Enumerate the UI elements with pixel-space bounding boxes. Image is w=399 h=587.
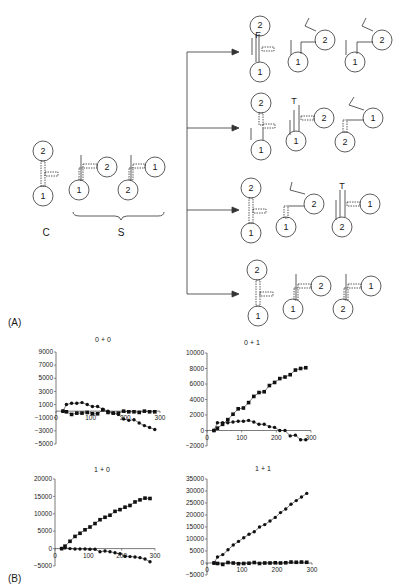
chart-title: 0 + 1 bbox=[244, 339, 260, 346]
circle-marker bbox=[226, 421, 229, 424]
square-marker bbox=[242, 406, 246, 410]
circle-marker bbox=[143, 557, 146, 560]
circle-marker bbox=[86, 403, 89, 406]
x-tick-label: 0 bbox=[54, 414, 58, 421]
square-marker bbox=[91, 412, 95, 416]
circle-marker bbox=[263, 423, 266, 426]
square-marker bbox=[279, 561, 283, 565]
y-tick-label: 15000 bbox=[34, 493, 52, 500]
brace-s bbox=[73, 212, 164, 220]
y-tick-label: −5000 bbox=[35, 440, 54, 447]
x-tick-label: 0 bbox=[205, 566, 209, 573]
circle-marker bbox=[232, 543, 235, 546]
square-marker bbox=[257, 391, 261, 395]
y-tick-label: 0 bbox=[200, 427, 204, 434]
square-marker bbox=[262, 390, 266, 394]
node-label: 1 bbox=[368, 281, 373, 291]
node-label: 2 bbox=[40, 146, 45, 156]
node-label: 1 bbox=[293, 136, 298, 146]
square-marker bbox=[300, 560, 304, 564]
x-tick-label: 200 bbox=[272, 566, 283, 573]
y-tick-label: −5000 bbox=[34, 562, 53, 569]
circle-marker bbox=[83, 547, 86, 550]
square-marker bbox=[231, 561, 235, 565]
circle-marker bbox=[128, 555, 131, 558]
x-tick-label: 200 bbox=[271, 434, 282, 441]
square-marker bbox=[247, 401, 251, 405]
circle-marker bbox=[113, 551, 116, 554]
diagram-panel-a bbox=[33, 16, 392, 326]
square-marker bbox=[273, 561, 277, 565]
square-marker bbox=[103, 515, 107, 519]
square-marker bbox=[78, 531, 82, 535]
circle-marker bbox=[299, 438, 302, 441]
circle-marker bbox=[148, 560, 151, 563]
circle-marker bbox=[106, 409, 109, 412]
y-tick-label: 10000 bbox=[186, 349, 204, 356]
chart-1: 0 + 090007000500030001000−1000−3000−5000… bbox=[35, 336, 166, 447]
circle-marker bbox=[127, 419, 130, 422]
circle-marker bbox=[73, 547, 76, 550]
figure-canvas: 2 1 1 2 2 1 C S 2 F 1 1 2 1 2 2 1 T 1 2 … bbox=[0, 0, 399, 587]
chart-title: 1 + 1 bbox=[255, 465, 271, 472]
y-tick-label: 2000 bbox=[190, 411, 205, 418]
y-tick-label: 35000 bbox=[186, 475, 204, 482]
circle-marker bbox=[123, 555, 126, 558]
circle-marker bbox=[122, 417, 125, 420]
node-label: 1 bbox=[352, 57, 357, 67]
chart-title: 0 + 0 bbox=[95, 336, 111, 343]
square-marker bbox=[75, 411, 79, 415]
square-marker bbox=[263, 561, 267, 565]
node-label: 2 bbox=[342, 137, 347, 147]
square-marker bbox=[70, 413, 74, 417]
x-tick-label: 300 bbox=[150, 552, 161, 559]
square-marker bbox=[231, 412, 235, 416]
square-marker bbox=[221, 563, 225, 567]
square-marker bbox=[153, 410, 157, 414]
square-marker bbox=[137, 411, 141, 415]
circle-marker bbox=[237, 540, 240, 543]
circle-marker bbox=[274, 516, 277, 519]
square-marker bbox=[93, 522, 97, 526]
circle-marker bbox=[279, 511, 282, 514]
node-label: 2 bbox=[104, 162, 109, 172]
node-label: 2 bbox=[379, 35, 384, 45]
square-marker bbox=[128, 504, 132, 508]
square-marker bbox=[237, 562, 241, 566]
square-marker bbox=[305, 560, 309, 564]
y-tick-label: 15000 bbox=[186, 523, 204, 530]
node-label: 1 bbox=[248, 228, 253, 238]
x-tick-label: 0 bbox=[53, 552, 57, 559]
circle-marker bbox=[91, 405, 94, 408]
square-marker bbox=[283, 375, 287, 379]
square-marker bbox=[123, 505, 127, 509]
circle-marker bbox=[112, 411, 115, 414]
y-tick-label: 1000 bbox=[39, 401, 54, 408]
diagram-labels: 2 1 1 2 2 1 C S 2 F 1 1 2 1 2 2 1 T 1 2 … bbox=[40, 20, 384, 321]
circle-marker bbox=[237, 420, 240, 423]
circle-marker bbox=[252, 420, 255, 423]
square-marker bbox=[108, 513, 112, 517]
circle-marker bbox=[117, 413, 120, 416]
y-tick-label: 3000 bbox=[39, 388, 54, 395]
x-tick-label: 100 bbox=[237, 566, 248, 573]
square-marker bbox=[133, 500, 137, 504]
circle-marker bbox=[294, 433, 297, 436]
circle-marker bbox=[231, 420, 234, 423]
y-tick-label: 4000 bbox=[190, 396, 205, 403]
node-label: 2 bbox=[254, 265, 259, 275]
square-marker bbox=[127, 410, 131, 414]
circle-marker bbox=[68, 547, 71, 550]
circle-marker bbox=[133, 555, 136, 558]
square-marker bbox=[98, 518, 102, 522]
node-label: 2 bbox=[311, 199, 316, 209]
node-label: 1 bbox=[290, 304, 295, 314]
circle-marker bbox=[65, 403, 68, 406]
x-tick-label: 0 bbox=[205, 434, 209, 441]
y-tick-label: 20000 bbox=[34, 475, 52, 482]
circle-marker bbox=[283, 429, 286, 432]
circle-marker bbox=[216, 421, 219, 424]
y-tick-label: 30000 bbox=[186, 487, 204, 494]
series-line-circles bbox=[63, 403, 155, 430]
circle-marker bbox=[101, 407, 104, 410]
